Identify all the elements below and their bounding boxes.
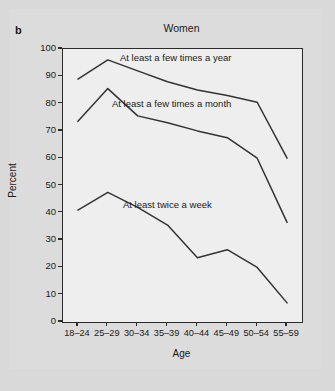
y-axis-tick-label: 100 bbox=[28, 43, 56, 53]
series-label-year: At least a few times a year bbox=[120, 53, 231, 63]
x-axis-tick-mark bbox=[226, 322, 227, 326]
series-line-year bbox=[78, 60, 287, 158]
x-axis-tick-mark bbox=[196, 322, 197, 326]
line-chart-svg bbox=[63, 49, 302, 322]
y-axis-tick-label: 90 bbox=[28, 71, 56, 81]
x-axis-tick-mark bbox=[256, 322, 257, 326]
y-axis-title: Percent bbox=[7, 151, 18, 211]
x-axis-tick-mark bbox=[76, 322, 77, 326]
x-axis-tick-labels: 18–2425–2930–3435–3940–4445–4950–5455–59 bbox=[40, 329, 323, 345]
y-axis-tick-label: 50 bbox=[28, 180, 56, 190]
x-axis-tick-mark bbox=[166, 322, 167, 326]
x-axis-tick-mark bbox=[285, 322, 286, 326]
y-axis-tick-label: 70 bbox=[28, 125, 56, 135]
panel-label: b bbox=[15, 24, 22, 36]
y-axis-tick-label: 20 bbox=[28, 262, 56, 272]
x-axis-tick-mark bbox=[106, 322, 107, 326]
y-axis-tick-label: 0 bbox=[28, 316, 56, 326]
x-axis-title: Age bbox=[62, 348, 301, 359]
x-axis-tick-marks bbox=[62, 321, 301, 327]
figure-container: b Women 0102030405060708090100 18–2425–2… bbox=[0, 0, 335, 391]
y-axis-tick-label: 60 bbox=[28, 152, 56, 162]
y-axis-tick-label: 30 bbox=[28, 234, 56, 244]
y-axis-tick-label: 80 bbox=[28, 98, 56, 108]
x-axis-tick-mark bbox=[136, 322, 137, 326]
series-label-week: At least twice a week bbox=[123, 200, 212, 210]
x-axis-tick-label: 55–59 bbox=[264, 329, 308, 338]
chart-title: Women bbox=[62, 22, 301, 34]
y-axis-tick-labels: 0102030405060708090100 bbox=[24, 48, 56, 321]
y-axis-tick-label: 40 bbox=[28, 207, 56, 217]
plot-area bbox=[62, 48, 303, 323]
series-label-month: At least a few times a month bbox=[112, 99, 231, 109]
y-axis-tick-label: 10 bbox=[28, 289, 56, 299]
